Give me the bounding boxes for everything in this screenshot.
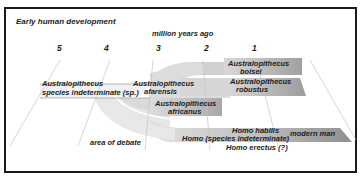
label-africanus-line2: africanus — [168, 107, 201, 116]
axis-label: million years ago — [152, 29, 214, 38]
label-homo-sp: Homo (species indeterminate) — [182, 134, 290, 143]
label-boisei-line2: boisei — [240, 67, 263, 76]
label-sp-line2: species indeterminate (sp.) — [42, 88, 139, 97]
tick-4: 4 — [103, 43, 109, 53]
tick-2: 2 — [203, 43, 209, 53]
label-homo-erectus: Homo erectus (?) — [226, 143, 288, 152]
tick-5: 5 — [57, 43, 62, 53]
label-afarensis-line2: afarensis — [144, 87, 177, 96]
human-evolution-diagram: Early human development million years ag… — [0, 0, 364, 178]
label-sp-line1: Australopithecus — [41, 79, 103, 88]
label-robustus-line2: robustus — [236, 85, 268, 94]
tick-3: 3 — [156, 43, 161, 53]
label-area-of-debate: area of debate — [90, 138, 141, 147]
label-modern-man: modern man — [290, 129, 335, 138]
tick-1: 1 — [252, 43, 257, 53]
diagram-title: Early human development — [16, 17, 116, 26]
